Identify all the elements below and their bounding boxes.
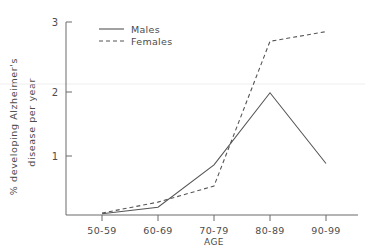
x-tick-label-70-79: 70-79 <box>199 225 229 236</box>
alzheimers-incidence-chart: % developing Alzheimer's disease per yea… <box>0 0 365 248</box>
y-tick-label-2: 2 <box>52 87 58 98</box>
plot-area: 3 2 1 50-59 60-69 70-79 80-89 90-99 AGE … <box>0 0 365 248</box>
legend-label-females: Females <box>131 36 172 47</box>
y-tick-label-3: 3 <box>52 17 58 28</box>
x-tick-label-90-99: 90-99 <box>311 225 341 236</box>
x-tick-label-50-59: 50-59 <box>87 225 117 236</box>
x-tick-label-80-89: 80-89 <box>255 225 285 236</box>
legend: Males Females <box>99 24 172 47</box>
legend-label-males: Males <box>131 24 160 35</box>
series-line-males <box>102 93 326 214</box>
x-axis-title: AGE <box>204 237 224 247</box>
series-line-females <box>102 32 326 213</box>
y-tick-label-1: 1 <box>52 151 58 162</box>
x-tick-label-60-69: 60-69 <box>143 225 173 236</box>
